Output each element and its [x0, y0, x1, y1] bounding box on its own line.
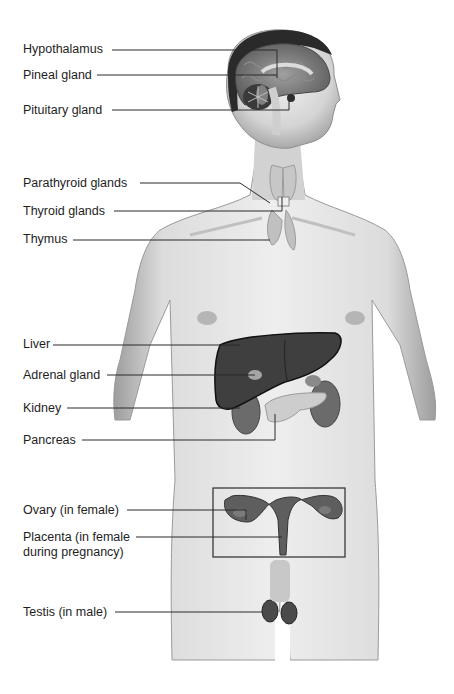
label-ovary: Ovary (in female)	[23, 503, 119, 518]
testis-right	[281, 602, 297, 624]
label-placenta: Placenta (in female during pregnancy)	[23, 530, 141, 560]
abdominal-organs	[215, 333, 341, 434]
label-hypothalamus: Hypothalamus	[23, 42, 103, 57]
label-pancreas: Pancreas	[23, 433, 76, 448]
head	[227, 30, 341, 148]
endocrine-system-diagram: Hypothalamus Pineal gland Pituitary glan…	[0, 0, 454, 694]
nipple-left	[197, 311, 217, 325]
label-parathyroid-glands: Parathyroid glands	[23, 176, 127, 191]
thyroid-organ	[278, 197, 289, 206]
label-thyroid-glands: Thyroid glands	[23, 204, 105, 219]
label-thymus: Thymus	[23, 232, 67, 247]
testis-left	[262, 600, 278, 622]
label-testis: Testis (in male)	[23, 605, 107, 620]
label-adrenal-gland: Adrenal gland	[23, 368, 100, 383]
nipple-right	[345, 311, 365, 325]
pituitary-organ	[287, 94, 295, 102]
label-pituitary-gland: Pituitary gland	[23, 103, 102, 118]
label-liver: Liver	[23, 337, 50, 352]
label-kidney: Kidney	[23, 401, 61, 416]
label-pineal-gland: Pineal gland	[23, 68, 92, 83]
